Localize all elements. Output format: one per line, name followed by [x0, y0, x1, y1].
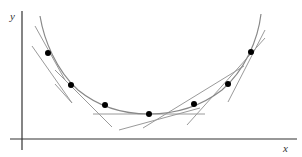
tangent-line [143, 66, 244, 128]
sample-points [45, 49, 254, 117]
sample-point [248, 49, 254, 55]
sample-point [225, 81, 231, 87]
y-axis-label: y [9, 10, 15, 22]
tangent-line [228, 30, 265, 102]
sample-point [45, 50, 51, 56]
diagram-canvas: y x [0, 0, 302, 157]
x-axis-label: x [282, 142, 288, 154]
tangent-line [55, 70, 112, 127]
sample-point [146, 111, 152, 117]
convex-curve [40, 14, 261, 114]
tangent-line [119, 108, 200, 130]
sample-point [102, 102, 108, 108]
sample-point [191, 101, 197, 107]
sample-point [68, 82, 74, 88]
